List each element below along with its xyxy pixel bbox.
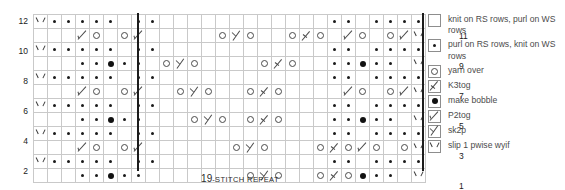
knit-cell <box>216 57 230 71</box>
sk2p-cell <box>202 113 216 127</box>
purl-cell <box>328 113 342 127</box>
knit-icon <box>300 155 313 168</box>
knit-icon <box>314 15 327 28</box>
knit-icon <box>202 155 215 168</box>
p2tog-icon <box>76 85 89 98</box>
knit-icon <box>118 99 131 112</box>
knit-cell <box>118 99 132 113</box>
knit-cell <box>202 71 216 85</box>
slip1-icon <box>34 15 47 28</box>
purl-cell <box>384 113 398 127</box>
purl-icon <box>398 43 411 56</box>
knit-icon <box>160 85 173 98</box>
k3tog-cell <box>300 29 314 43</box>
purl-icon <box>118 169 131 182</box>
bobble-icon <box>104 169 117 182</box>
knit-cell <box>244 155 258 169</box>
knit-icon <box>34 169 47 182</box>
knit-icon <box>202 57 215 70</box>
p2tog-icon <box>398 29 411 42</box>
sk2p-cell <box>188 85 202 99</box>
knit-icon <box>314 127 327 140</box>
slip1-cell <box>34 71 48 85</box>
purl-icon <box>48 71 61 84</box>
purl-icon <box>76 15 89 28</box>
sk2p-icon <box>174 57 187 70</box>
legend-label: make bobble <box>448 95 497 106</box>
legend-glyph <box>428 65 441 78</box>
knit-icon <box>272 141 285 154</box>
p2tog-cell <box>398 29 412 43</box>
purl-icon <box>118 57 131 70</box>
purl-icon <box>90 57 103 70</box>
yarn-over-icon <box>428 65 441 78</box>
knit-icon <box>356 127 369 140</box>
knit-cell <box>356 71 370 85</box>
purl-cell <box>118 169 132 183</box>
knit-icon <box>118 15 131 28</box>
purl-cell <box>62 71 76 85</box>
purl-cell <box>62 99 76 113</box>
knit-cell <box>34 169 48 183</box>
knit-icon <box>174 15 187 28</box>
chart-row <box>34 57 426 71</box>
knit-cell <box>118 127 132 141</box>
knit-cell <box>62 169 76 183</box>
knit-cell <box>272 71 286 85</box>
purl-cell <box>384 43 398 57</box>
purl-icon <box>90 99 103 112</box>
purl-icon <box>90 71 103 84</box>
purl-cell <box>76 113 90 127</box>
purl-icon <box>146 99 159 112</box>
knit-icon <box>174 155 187 168</box>
knit-cell <box>202 155 216 169</box>
legend-item: K3tog <box>428 80 564 93</box>
yarn-over-icon <box>286 57 299 70</box>
k3tog-cell <box>328 141 342 155</box>
knit-cell <box>202 141 216 155</box>
bobble-icon <box>356 57 369 70</box>
p2tog-icon <box>342 29 355 42</box>
purl-icon <box>104 43 117 56</box>
knit-cell <box>118 15 132 29</box>
knit-icon <box>272 71 285 84</box>
knit-cell <box>258 15 272 29</box>
sk2p-icon <box>202 113 215 126</box>
knit-icon <box>160 15 173 28</box>
purl-icon <box>398 99 411 112</box>
knit-cell <box>286 71 300 85</box>
purl-cell <box>384 127 398 141</box>
knit-cell <box>314 99 328 113</box>
yarn-over-icon <box>272 113 285 126</box>
purl-cell <box>342 99 356 113</box>
knit-cell <box>202 57 216 71</box>
slip1-cell <box>34 127 48 141</box>
knit-cell <box>272 15 286 29</box>
knit-cell <box>216 155 230 169</box>
knit-icon <box>384 141 397 154</box>
purl-cell <box>90 155 104 169</box>
purl-icon <box>370 155 383 168</box>
purl-cell <box>342 43 356 57</box>
knit-icon <box>356 155 369 168</box>
purl-cell <box>328 71 342 85</box>
yarn-over-cell <box>384 85 398 99</box>
purl-icon <box>90 155 103 168</box>
knit-icon <box>244 155 257 168</box>
knit-cell <box>258 127 272 141</box>
purl-icon <box>62 99 75 112</box>
purl-icon <box>90 43 103 56</box>
knit-icon <box>230 15 243 28</box>
knit-icon <box>174 71 187 84</box>
purl-icon <box>118 113 131 126</box>
purl-icon <box>370 99 383 112</box>
knit-icon <box>160 43 173 56</box>
k3tog-icon <box>300 29 313 42</box>
purl-cell <box>370 15 384 29</box>
purl-cell <box>104 99 118 113</box>
knit-cell <box>216 99 230 113</box>
bobble-icon <box>104 57 117 70</box>
knit-cell <box>314 85 328 99</box>
legend-glyph <box>428 95 441 108</box>
knit-cell <box>202 99 216 113</box>
